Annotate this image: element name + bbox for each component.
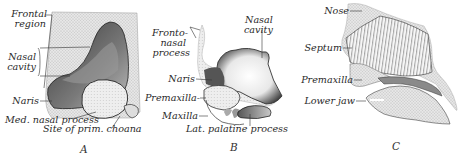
panel-letter-a: A: [80, 143, 88, 155]
label-nasal-cavity-a-line2: cavity: [2, 62, 36, 72]
label-nasal-cavity-b-line2: cavity: [244, 25, 273, 35]
panel-letter-c: C: [392, 140, 400, 152]
label-naris-b: Naris: [150, 74, 195, 84]
panel-c-drawing: [342, 4, 457, 125]
figure-drawing: [0, 0, 467, 162]
panel-b-drawing: [190, 25, 282, 126]
label-frontonasal-line3: process: [148, 48, 190, 58]
label-site-prim-choana: Site of prim. choana: [43, 124, 142, 134]
panel-letter-b: B: [230, 141, 238, 153]
label-premaxilla-c: Premaxilla: [295, 75, 353, 85]
label-frontal-region-line2: region: [5, 19, 46, 29]
label-septum: Septum: [300, 43, 342, 53]
label-lat-palatine-process: Lat. palatine process: [186, 124, 288, 134]
label-lower-jaw: Lower jaw: [300, 96, 355, 106]
label-nose: Nose: [310, 6, 349, 16]
anatomy-figure: Frontal region Nasal cavity Naris Med. n…: [0, 0, 467, 162]
label-naris-a: Naris: [5, 96, 39, 106]
panel-a-drawing: [38, 12, 140, 128]
label-premaxilla-b: Premaxilla-: [140, 93, 200, 103]
label-maxilla: Maxilla: [150, 111, 198, 121]
